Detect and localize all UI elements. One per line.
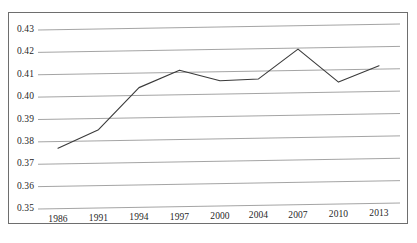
x-tick-label-2007: 2007 <box>278 211 318 221</box>
data-series-line <box>58 49 379 148</box>
y-tick-label-0.37: 0.37 <box>6 159 34 169</box>
x-tick-label-1997: 1997 <box>160 213 200 223</box>
x-tick-label-2000: 2000 <box>200 212 240 222</box>
x-tick-label-2004: 2004 <box>239 211 279 221</box>
y-tick-label-0.36: 0.36 <box>6 182 34 192</box>
y-tick-label-0.41: 0.41 <box>6 70 34 80</box>
y-tick-label-0.43: 0.43 <box>6 25 34 35</box>
x-tick-label-1994: 1994 <box>119 213 159 223</box>
x-tick-label-1986: 1986 <box>38 215 78 225</box>
chart-plot-area <box>0 0 417 243</box>
x-tick-label-2010: 2010 <box>319 210 359 220</box>
y-tick-label-0.38: 0.38 <box>6 137 34 147</box>
y-tick-label-0.39: 0.39 <box>6 115 34 125</box>
gridline-0.37 <box>38 158 400 164</box>
gridline-0.41 <box>38 69 400 75</box>
x-tick-label-1991: 1991 <box>79 214 119 224</box>
x-tick-label-2013: 2013 <box>359 209 399 219</box>
gridline-0.43 <box>38 24 400 30</box>
y-tick-label-0.35: 0.35 <box>6 204 34 214</box>
gridline-0.42 <box>38 46 400 52</box>
y-tick-label-0.42: 0.42 <box>6 47 34 57</box>
gridlines-group <box>38 24 400 209</box>
gridline-0.39 <box>38 114 400 120</box>
gridline-0.40 <box>38 91 400 97</box>
gridline-0.38 <box>38 136 400 142</box>
gridline-0.36 <box>38 181 400 187</box>
y-tick-label-0.40: 0.40 <box>6 92 34 102</box>
line-chart: 0.350.360.370.380.390.400.410.420.43 198… <box>0 0 417 243</box>
